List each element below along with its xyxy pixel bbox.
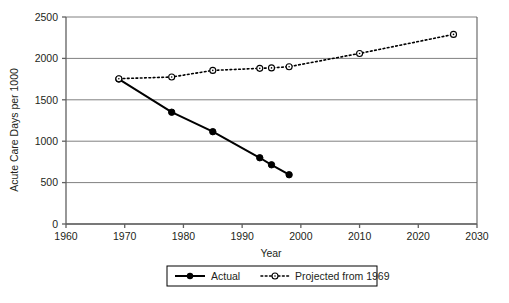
legend-label-projected: Projected from 1969 [295,270,390,282]
data-point [168,109,174,115]
data-point [286,172,292,178]
data-point-center [259,68,261,70]
data-point-center [453,34,455,36]
chart-background [0,0,509,303]
data-point [257,155,263,161]
x-axis-title: Year [260,247,282,259]
y-tick-label: 2500 [35,11,59,23]
y-tick-label: 1000 [35,135,59,147]
data-point-center [171,76,173,78]
y-tick-label: 2000 [35,52,59,64]
y-tick-label: 1500 [35,94,59,106]
data-point [210,128,216,134]
x-tick-label: 1970 [113,230,137,242]
legend-swatch-marker [187,273,193,279]
x-tick-label: 2000 [289,230,313,242]
data-point-center [118,78,120,80]
x-tick-label: 2020 [407,230,431,242]
y-tick-label: 500 [40,176,58,188]
data-point-center [359,53,361,55]
data-point [268,162,274,168]
data-point-center [212,70,214,72]
x-tick-label: 2010 [348,230,372,242]
chart-container: 25002000150010005000 1960197019801990200… [0,0,509,303]
x-tick-label: 1990 [230,230,254,242]
line-chart: 25002000150010005000 1960197019801990200… [0,0,509,303]
chart-legend: ActualProjected from 1969 [167,266,390,286]
x-tick-label: 1960 [54,230,78,242]
y-axis-title: Acute Care Days per 1000 [8,68,20,192]
x-tick-label: 1980 [172,230,196,242]
y-tick-label: 0 [52,218,58,230]
legend-label-actual: Actual [211,270,240,282]
legend-swatch-marker-center [274,275,276,277]
data-point-center [271,67,273,69]
x-tick-label: 2030 [465,230,489,242]
data-point-center [288,66,290,68]
